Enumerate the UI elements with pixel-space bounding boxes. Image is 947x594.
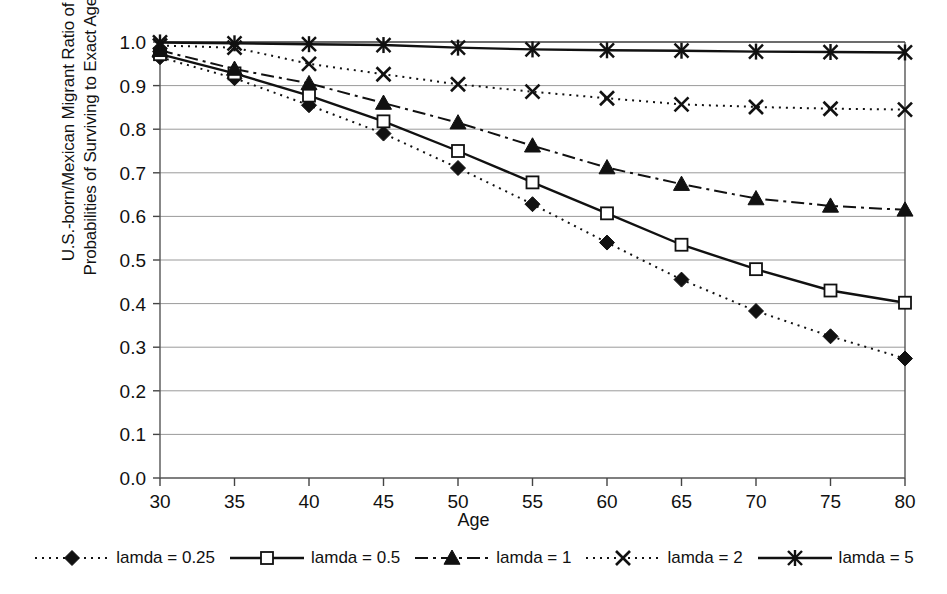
x-axis-tick-label: 45 bbox=[373, 491, 394, 512]
data-point-marker bbox=[301, 75, 317, 89]
legend-swatch-asterisk-icon bbox=[756, 548, 834, 568]
y-axis-tick-label: 0.9 bbox=[120, 76, 146, 97]
legend-item-1[interactable]: lamda = 0.5 bbox=[228, 548, 400, 568]
chart-figure: U.S.-born/Mexican Migrant Ratio of Proba… bbox=[0, 0, 947, 594]
y-axis-tick-label: 0.5 bbox=[120, 250, 146, 271]
data-point-marker bbox=[376, 126, 391, 141]
legend-item-0[interactable]: lamda = 0.25 bbox=[33, 548, 215, 568]
data-point-marker bbox=[899, 297, 911, 309]
data-point-marker bbox=[898, 351, 913, 366]
legend-label: lamda = 0.25 bbox=[116, 548, 215, 568]
data-point-marker bbox=[825, 285, 837, 297]
y-axis-tick-label: 0.7 bbox=[120, 163, 146, 184]
data-point-marker bbox=[65, 551, 80, 566]
legend-swatch-open-square-icon bbox=[228, 548, 306, 568]
data-point-marker bbox=[676, 239, 688, 251]
data-point-marker bbox=[749, 304, 764, 319]
data-point-marker bbox=[750, 263, 762, 275]
chart-plot-area: 0.00.10.20.30.40.50.60.70.80.91.03035404… bbox=[0, 0, 947, 594]
data-point-marker bbox=[600, 235, 615, 250]
legend-label: lamda = 0.5 bbox=[311, 548, 400, 568]
x-axis-tick-label: 55 bbox=[522, 491, 543, 512]
x-axis-tick-label: 40 bbox=[298, 491, 319, 512]
data-point-marker bbox=[377, 67, 391, 81]
y-axis-tick-label: 1.0 bbox=[120, 32, 146, 53]
data-point-marker bbox=[451, 77, 465, 91]
legend-label: lamda = 1 bbox=[496, 548, 571, 568]
legend-swatch-x-icon bbox=[584, 548, 662, 568]
data-point-marker bbox=[378, 115, 390, 127]
data-point-marker bbox=[527, 176, 539, 188]
y-axis-tick-label: 0.6 bbox=[120, 206, 146, 227]
y-axis-tick-label: 0.0 bbox=[120, 468, 146, 489]
y-axis-tick-label: 0.4 bbox=[120, 294, 147, 315]
data-point-marker bbox=[376, 95, 392, 109]
data-point-marker bbox=[674, 272, 689, 287]
data-point-marker bbox=[823, 329, 838, 344]
data-point-marker bbox=[452, 145, 464, 157]
x-axis-tick-label: 60 bbox=[596, 491, 617, 512]
legend-swatch-filled-diamond-icon bbox=[33, 548, 111, 568]
x-axis-tick-label: 50 bbox=[447, 491, 468, 512]
data-point-marker bbox=[525, 197, 540, 212]
data-point-marker bbox=[261, 552, 273, 564]
chart-legend: lamda = 0.25lamda = 0.5lamda = 1lamda = … bbox=[0, 548, 947, 568]
y-axis-tick-label: 0.2 bbox=[120, 381, 146, 402]
x-axis-tick-label: 65 bbox=[671, 491, 692, 512]
data-point-marker bbox=[303, 90, 315, 102]
y-axis-tick-label: 0.1 bbox=[120, 424, 146, 445]
y-axis-tick-label: 0.8 bbox=[120, 119, 146, 140]
legend-label: lamda = 2 bbox=[667, 548, 742, 568]
data-point-marker bbox=[674, 176, 690, 190]
data-point-marker bbox=[675, 97, 689, 111]
data-point-marker bbox=[616, 551, 630, 565]
legend-item-4[interactable]: lamda = 5 bbox=[756, 548, 914, 568]
x-axis-tick-label: 35 bbox=[224, 491, 245, 512]
data-point-marker bbox=[525, 138, 541, 152]
x-axis-tick-label: 80 bbox=[894, 491, 915, 512]
legend-item-2[interactable]: lamda = 1 bbox=[413, 548, 571, 568]
legend-item-3[interactable]: lamda = 2 bbox=[584, 548, 742, 568]
legend-label: lamda = 5 bbox=[839, 548, 914, 568]
x-axis-tick-label: 30 bbox=[149, 491, 170, 512]
y-axis-tick-label: 0.3 bbox=[120, 337, 146, 358]
x-axis-title: Age bbox=[0, 510, 947, 531]
legend-swatch-filled-triangle-icon bbox=[413, 548, 491, 568]
data-point-marker bbox=[599, 160, 615, 174]
data-point-marker bbox=[450, 115, 466, 129]
data-point-marker bbox=[601, 207, 613, 219]
x-axis-tick-label: 70 bbox=[745, 491, 766, 512]
x-axis-tick-label: 75 bbox=[820, 491, 841, 512]
